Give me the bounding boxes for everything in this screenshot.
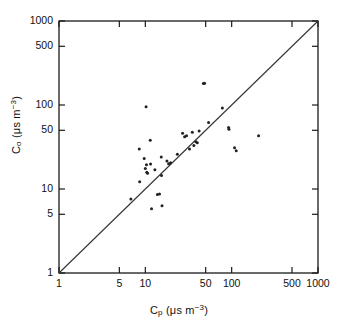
data-point	[181, 132, 184, 135]
x-axis-units-exponent: −3	[195, 303, 205, 312]
data-point	[196, 141, 199, 144]
x-axis-units-close: )	[204, 304, 208, 316]
data-point	[235, 149, 238, 152]
data-point	[145, 105, 148, 108]
data-points	[129, 82, 260, 211]
data-point	[145, 163, 148, 166]
data-point	[203, 82, 206, 85]
data-point	[185, 134, 188, 137]
data-point	[144, 167, 147, 170]
y-axis-units: μs m	[10, 109, 22, 134]
y-tick-label: 10	[3, 182, 53, 194]
data-point	[191, 131, 194, 134]
data-point	[160, 156, 163, 159]
data-point	[138, 147, 141, 150]
data-point	[207, 121, 210, 124]
y-axis-units-close: )	[10, 96, 22, 100]
data-point	[149, 163, 152, 166]
x-axis-label-subscript: p	[158, 308, 163, 317]
x-axis-units: μs m	[170, 304, 195, 316]
data-point	[146, 172, 149, 175]
data-point	[176, 153, 179, 156]
data-point	[233, 146, 236, 149]
data-point	[192, 144, 195, 147]
x-axis-label: Cp (μs m−3)	[109, 303, 249, 317]
scatter-plot-figure: 15105010050010001510501005001000 Co (μs …	[0, 0, 345, 331]
data-point	[129, 198, 132, 201]
data-point	[188, 147, 191, 150]
data-point	[198, 130, 201, 133]
data-point	[165, 160, 168, 163]
y-axis-units-open: (	[10, 134, 22, 138]
data-point	[149, 139, 152, 142]
data-point	[227, 128, 230, 131]
data-point	[158, 193, 161, 196]
y-axis-units-exponent: −3	[9, 100, 18, 110]
data-point	[150, 207, 153, 210]
x-tick-label: 10	[120, 277, 170, 289]
y-axis-label-subscript: o	[14, 141, 23, 146]
data-point	[257, 134, 260, 137]
y-tick-label: 500	[3, 39, 53, 51]
x-tick-label: 100	[207, 277, 257, 289]
x-tick-label: 1	[34, 277, 84, 289]
data-point	[138, 180, 141, 183]
y-tick-label: 1	[3, 266, 53, 278]
y-axis-label-symbol: C	[10, 146, 22, 154]
y-tick-label: 1000	[3, 14, 53, 26]
data-point	[161, 204, 164, 207]
x-tick-label: 1000	[293, 277, 343, 289]
data-point	[160, 174, 163, 177]
x-axis-label-symbol: C	[150, 304, 158, 316]
y-tick-label: 5	[3, 207, 53, 219]
data-point	[169, 161, 172, 164]
data-point	[143, 157, 146, 160]
data-point	[153, 168, 156, 171]
data-point	[221, 107, 224, 110]
y-axis-label: Co (μs m−3)	[9, 85, 23, 165]
one-to-one-reference-line	[59, 21, 318, 273]
